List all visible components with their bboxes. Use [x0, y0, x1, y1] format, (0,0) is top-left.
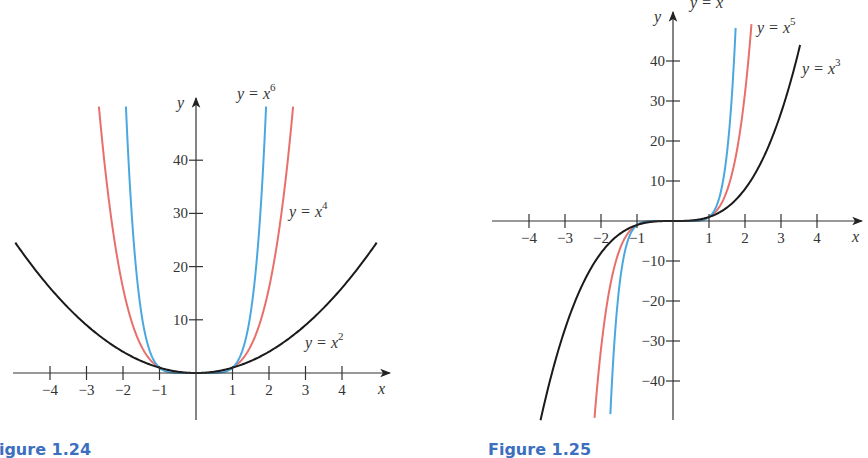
x-tick-label: −3: [79, 382, 95, 398]
curve-label-x2: y = x2: [303, 330, 344, 352]
y-tick-label: 20: [173, 259, 188, 275]
x-tick-label: 4: [813, 230, 821, 246]
x-tick-label: 2: [741, 230, 749, 246]
y-tick-label: 30: [650, 93, 665, 109]
curve-label-x6: y = x6: [235, 81, 276, 103]
y-axis-label: y: [652, 8, 662, 26]
curve-label-x7: y = x7: [688, 0, 729, 12]
curve-label-x3: y = x3: [800, 56, 841, 78]
x-tick-label: −4: [521, 230, 537, 246]
curve-label-text: y = x: [755, 19, 790, 37]
x-axis-label: x: [851, 228, 859, 245]
x-tick-label: −3: [557, 230, 573, 246]
x-tick-label: 3: [777, 230, 785, 246]
x-axis-label: x: [377, 380, 385, 397]
curve-label-exponent: 2: [338, 330, 344, 342]
curve-label-exponent: 5: [790, 15, 796, 27]
y-tick-label: −20: [642, 293, 665, 309]
y-tick-label: −40: [642, 373, 665, 389]
y-tick-label: 40: [650, 53, 665, 69]
y-tick-label: 10: [650, 173, 665, 189]
figure-caption: Figure 1.25: [488, 440, 591, 458]
x-tick-label: −2: [115, 382, 131, 398]
figure-1-25: −4−3−2−11234−40−30−20−1010203040 x y y =…: [488, 0, 862, 458]
y-axis-label: y: [175, 94, 185, 112]
x-tick-label: −1: [152, 382, 168, 398]
y-tick-label: 30: [173, 205, 188, 221]
ticks-group: −4−3−2−1123410203040: [42, 152, 346, 398]
curve-label-exponent: 6: [270, 81, 276, 93]
y-tick-label: 40: [173, 152, 188, 168]
x-tick-label: −2: [593, 230, 609, 246]
curve-label-text: y = x: [800, 60, 835, 78]
curve-label-exponent: 3: [835, 56, 841, 68]
figure-1-24: −4−3−2−1123410203040 x y y = x6 y = x4 y…: [0, 81, 390, 458]
curve-label-text: y = x: [287, 203, 322, 221]
curve-label-text: y = x: [688, 0, 723, 12]
y-tick-label: −30: [642, 333, 665, 349]
y-tick-label: 20: [650, 133, 665, 149]
figure-caption: Figure 1.24: [0, 440, 91, 458]
x-tick-label: −1: [629, 230, 645, 246]
x-tick-label: 1: [229, 382, 237, 398]
curve-label-x4: y = x4: [287, 199, 328, 221]
figures-canvas: −4−3−2−1123410203040 x y y = x6 y = x4 y…: [0, 0, 868, 458]
y-tick-label: 10: [173, 312, 188, 328]
y-tick-label: −10: [642, 253, 665, 269]
curves-group: [541, 24, 801, 420]
curve-label-exponent: 7: [723, 0, 729, 2]
x-tick-label: 2: [265, 382, 273, 398]
x-tick-label: −4: [42, 382, 58, 398]
x-tick-label: 1: [705, 230, 713, 246]
curve-label-text: y = x: [235, 85, 270, 103]
x-tick-label: 4: [338, 382, 346, 398]
curve-label-exponent: 4: [322, 199, 328, 211]
x-tick-label: 3: [302, 382, 310, 398]
curve-label-x5: y = x5: [755, 15, 796, 37]
curve-label-text: y = x: [303, 334, 338, 352]
